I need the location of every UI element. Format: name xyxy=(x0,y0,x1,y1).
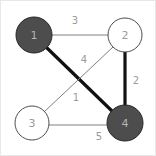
edge-weight-3-4: 5 xyxy=(96,131,102,142)
edge-weight-1-4: 1 xyxy=(73,92,79,103)
node-label-4: 4 xyxy=(122,117,129,130)
graph-node-2[interactable]: 2 xyxy=(108,18,142,52)
graph-node-4[interactable]: 4 xyxy=(107,105,143,141)
node-label-1: 1 xyxy=(31,29,38,42)
node-label-2: 2 xyxy=(122,29,129,42)
graph-node-3[interactable]: 3 xyxy=(15,106,49,140)
edge-weight-2-3: 4 xyxy=(81,54,87,65)
graph-svg-root: 1234 31425 xyxy=(1,1,156,156)
edge-weight-1-2: 3 xyxy=(72,15,78,26)
node-label-3: 3 xyxy=(29,117,36,130)
graph-diagram: 1234 31425 xyxy=(0,0,156,156)
edge-weight-2-4: 2 xyxy=(133,75,139,86)
graph-node-1[interactable]: 1 xyxy=(16,17,52,53)
